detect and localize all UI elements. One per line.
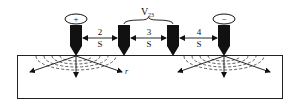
current-arrows-right bbox=[178, 56, 270, 77]
svg-text:S: S bbox=[196, 39, 201, 49]
probe-3 bbox=[167, 25, 179, 56]
positive-terminal: + bbox=[65, 14, 87, 24]
spacing-1-2: 2 S bbox=[83, 27, 117, 49]
sample-block bbox=[18, 56, 283, 99]
probe-1 bbox=[70, 25, 82, 56]
svg-text:3: 3 bbox=[147, 27, 152, 37]
svg-text:S: S bbox=[146, 39, 151, 49]
svg-text:2: 2 bbox=[98, 27, 103, 37]
negative-terminal: − bbox=[213, 14, 235, 24]
current-arrows-left bbox=[30, 56, 122, 77]
spacing-3-4: 4 S bbox=[180, 27, 217, 49]
svg-text:23: 23 bbox=[148, 12, 154, 18]
radial-label: r bbox=[125, 67, 129, 76]
probe-4 bbox=[218, 25, 230, 56]
voltage-brace: V 23 bbox=[124, 6, 173, 24]
svg-text:−: − bbox=[221, 14, 226, 24]
svg-text:4: 4 bbox=[197, 27, 202, 37]
probe-2 bbox=[118, 25, 130, 56]
four-point-probe-diagram: r + − V 23 2 S bbox=[0, 0, 294, 104]
svg-text:+: + bbox=[73, 14, 78, 24]
spacing-2-3: 3 S bbox=[131, 27, 166, 49]
svg-text:S: S bbox=[97, 39, 102, 49]
